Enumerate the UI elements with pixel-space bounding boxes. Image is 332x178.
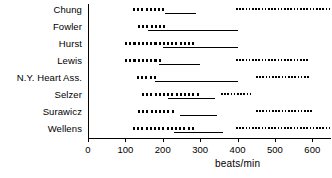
bar-segment-solid [148, 30, 238, 31]
chart-container: ChungFowlerHurstLewisN.Y. Heart Ass.Selz… [0, 0, 332, 178]
bar-segment-solid [159, 64, 200, 65]
bar-segment-solid [155, 81, 237, 82]
bar-row [88, 106, 332, 123]
bar-segment-fine-dotted [256, 76, 308, 78]
bar-row [88, 38, 332, 55]
bar-row [88, 123, 332, 140]
category-label: Surawicz [43, 107, 82, 117]
bar-segment-thick-dotted [125, 42, 196, 45]
bar-segment-thick-dotted [137, 76, 158, 79]
bar-segment-thick-dotted [133, 127, 197, 130]
bar-row [88, 89, 332, 106]
bar-segment-solid [174, 132, 223, 133]
category-label: Hurst [59, 39, 82, 49]
category-label: Fowler [53, 22, 82, 32]
bar-segment-fine-dotted [236, 8, 331, 10]
plot-area: 0100200300400500600 [88, 4, 332, 138]
x-tick-label: 600 [304, 144, 320, 155]
bar-segment-thick-dotted [133, 8, 167, 11]
bar-row [88, 21, 332, 38]
bar-segment-fine-dotted [221, 93, 253, 95]
bar-segment-solid [163, 47, 238, 48]
x-tick-label: 400 [230, 144, 246, 155]
bar-row [88, 4, 332, 21]
bar-segment-thick-dotted [138, 110, 175, 113]
bar-segment-thick-dotted [125, 59, 161, 62]
category-label: N.Y. Heart Ass. [17, 73, 82, 83]
x-tick-label: 200 [155, 144, 171, 155]
x-tick-label: 300 [192, 144, 208, 155]
x-axis-title: beats/min [215, 158, 260, 169]
bar-segment-solid [180, 115, 217, 116]
bar-segment-solid [165, 13, 197, 14]
category-label: Selzer [54, 90, 82, 100]
bar-segment-fine-dotted [256, 110, 312, 112]
bar-segment-fine-dotted [236, 59, 309, 61]
bar-segment-thick-dotted [142, 93, 200, 96]
bar-segment-solid [168, 98, 215, 99]
bar-segment-thick-dotted [138, 25, 164, 28]
category-label: Wellens [48, 124, 82, 134]
bar-row [88, 72, 332, 89]
x-tick-label: 100 [117, 144, 133, 155]
x-tick-label: 500 [267, 144, 283, 155]
category-label: Chung [54, 5, 83, 15]
bar-row [88, 55, 332, 72]
category-label: Lewis [57, 56, 82, 66]
x-tick-label: 0 [85, 144, 90, 155]
bar-segment-fine-dotted [236, 127, 331, 129]
